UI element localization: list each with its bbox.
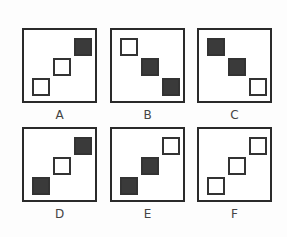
option-panel-d: [22, 127, 97, 202]
empty-square-top-right: [162, 137, 180, 155]
empty-square-middle: [53, 58, 71, 76]
option-label: C: [197, 108, 272, 122]
option-label: D: [22, 207, 97, 221]
option-label: E: [110, 207, 185, 221]
empty-square-bottom-right: [249, 78, 267, 96]
option-label: F: [197, 207, 272, 221]
filled-square-top-right: [74, 38, 92, 56]
filled-square-middle: [141, 58, 159, 76]
option-panel-a: [22, 28, 97, 103]
filled-square-bottom-left: [120, 177, 138, 195]
filled-square-top-right: [74, 137, 92, 155]
option-panel-c: [197, 28, 272, 103]
option-label: A: [22, 108, 97, 122]
empty-square-top-right: [249, 137, 267, 155]
empty-square-middle: [228, 157, 246, 175]
empty-square-top-left: [120, 38, 138, 56]
empty-square-middle: [53, 157, 71, 175]
filled-square-bottom-left: [32, 177, 50, 195]
option-label: B: [110, 108, 185, 122]
empty-square-bottom-left: [207, 177, 225, 195]
option-panel-e: [110, 127, 185, 202]
filled-square-top-left: [207, 38, 225, 56]
filled-square-middle: [141, 157, 159, 175]
filled-square-middle: [228, 58, 246, 76]
empty-square-bottom-left: [32, 78, 50, 96]
option-panel-f: [197, 127, 272, 202]
option-panel-b: [110, 28, 185, 103]
filled-square-bottom-right: [162, 78, 180, 96]
